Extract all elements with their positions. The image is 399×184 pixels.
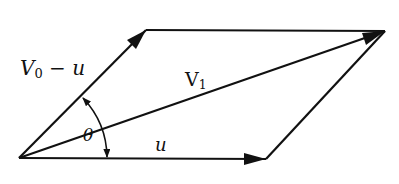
label-v0-rest: − u <box>43 56 85 80</box>
label-v1: V1 <box>185 70 207 91</box>
label-theta-text: θ <box>83 125 93 145</box>
vector-v1 <box>19 31 385 158</box>
vector-u <box>19 158 266 159</box>
top-edge <box>146 30 385 31</box>
label-u: u <box>155 136 167 154</box>
label-v1-main: V <box>185 68 199 90</box>
label-v1-sub: 1 <box>199 78 207 92</box>
arrowhead-u-icon <box>244 153 266 165</box>
label-v0-main: V <box>20 56 34 80</box>
label-v0-sub: 0 <box>34 66 42 81</box>
right-edge <box>266 31 385 159</box>
label-theta: θ <box>83 127 93 144</box>
label-v0-minus-u: V0 − u <box>20 58 85 80</box>
label-u-text: u <box>155 134 167 155</box>
